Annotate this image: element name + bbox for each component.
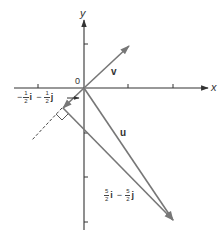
x-axis-ticks — [38, 84, 173, 88]
dashed-extension-line — [32, 108, 62, 140]
vector-u-label: u — [120, 128, 126, 138]
projection-coef1: 1 2 — [23, 90, 28, 105]
projection-sign: − — [17, 93, 22, 102]
projection-coef2: 1 2 — [44, 90, 49, 105]
vector-v-label: v — [111, 67, 117, 77]
unit-j: j — [51, 93, 54, 102]
vector-difference — [63, 108, 173, 220]
projection-op: − — [36, 93, 41, 102]
unit-i: i — [110, 191, 113, 200]
vector-v — [84, 46, 129, 88]
unit-i: i — [30, 93, 33, 102]
projection-vector-label: − 1 2 i − 1 2 j — [17, 90, 55, 105]
difference-coef1: 5 2 — [104, 188, 109, 203]
origin-label: 0 — [75, 77, 80, 86]
right-angle-mark — [56, 114, 68, 120]
difference-op: − — [117, 191, 122, 200]
y-axis-label: y — [80, 8, 86, 19]
unit-j: j — [131, 191, 134, 200]
difference-vector-label: 5 2 i − 5 2 j — [103, 188, 136, 203]
x-axis-label: x — [211, 82, 217, 93]
difference-coef2: 5 2 — [125, 188, 130, 203]
